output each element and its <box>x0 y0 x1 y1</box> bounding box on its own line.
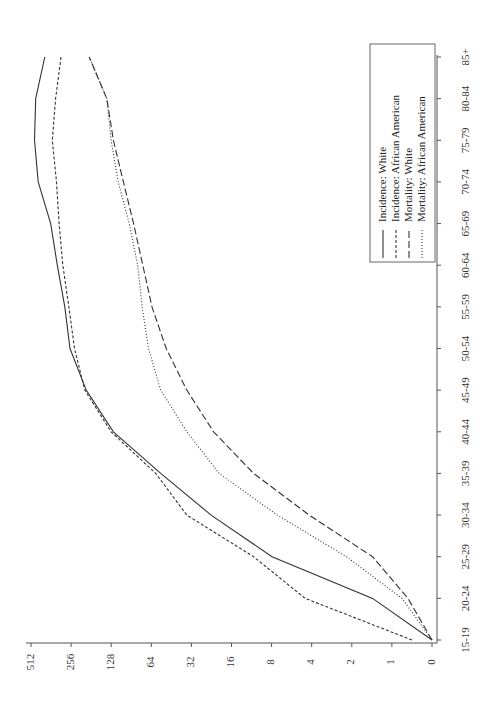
age-tick-label: 50-54 <box>459 335 471 361</box>
legend-label: Incidence: White <box>376 147 388 222</box>
age-tick-label: 55-59 <box>459 294 471 320</box>
age-tick-label: 20-24 <box>459 585 471 611</box>
value-tick-label: 1 <box>384 659 396 665</box>
value-tick-label: 512 <box>24 654 36 671</box>
age-tick-label: 40-44 <box>459 418 471 444</box>
value-tick-label: 4 <box>304 659 316 665</box>
value-tick-label: 0 <box>425 659 437 665</box>
legend-label: Mortality: White <box>402 148 414 222</box>
age-tick-label: 70-74 <box>459 169 471 195</box>
value-tick-label: 16 <box>224 656 236 668</box>
value-tick-label: 64 <box>144 656 156 668</box>
legend-label: Mortality: African American <box>415 96 427 222</box>
age-tick-label: 35-39 <box>459 460 471 486</box>
age-tick-label: 65-69 <box>459 210 471 236</box>
age-tick-label: 60-64 <box>459 252 471 278</box>
age-tick-label: 30-34 <box>459 502 471 528</box>
value-tick-label: 256 <box>64 653 76 670</box>
age-tick-label: 80-84 <box>459 85 471 111</box>
age-tick-label: 85+ <box>459 48 471 65</box>
value-tick-label: 32 <box>184 657 196 668</box>
series-line-incidence-african-american <box>52 57 412 640</box>
age-tick-label: 25-29 <box>459 543 471 569</box>
value-axis-ticks: 51225612864321684210 <box>24 643 437 670</box>
age-tick-label: 45-49 <box>459 377 471 403</box>
age-axis-ticks: 15-1920-2425-2930-3435-3940-4445-4950-54… <box>437 48 471 652</box>
value-tick-label: 128 <box>104 653 116 670</box>
value-tick-label: 2 <box>344 659 356 665</box>
value-tick-label: 8 <box>264 659 276 665</box>
age-tick-label: 75-79 <box>459 127 471 153</box>
legend: Incidence: WhiteIncidence: African Ameri… <box>370 44 435 262</box>
legend-label: Incidence: African American <box>389 94 401 222</box>
rotated-line-chart: 51225612864321684210 15-1920-2425-2930-3… <box>0 0 499 709</box>
age-tick-label: 15-19 <box>459 627 471 653</box>
